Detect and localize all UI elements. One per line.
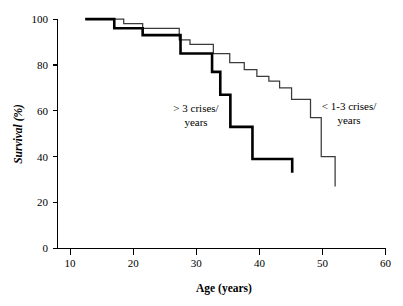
x-tick-label-40: 40: [254, 257, 266, 269]
annotation-low-crises-line1: < 1-3 crises/: [322, 100, 377, 112]
y-tick-label-20: 20: [37, 196, 49, 208]
annotation-high-crises-line2: years: [184, 116, 207, 128]
y-axis-title: Survival (%): [12, 104, 25, 164]
x-tick-label-10: 10: [65, 257, 77, 269]
survival-curve-plot: 0 20 40 60 80 100 10 20 30 40 50: [0, 0, 403, 306]
survival-curve-high-crises: [85, 19, 292, 173]
x-axis-title: Age (years): [196, 282, 252, 295]
survival-chart-figure: 0 20 40 60 80 100 10 20 30 40 50: [0, 0, 403, 306]
y-tick-label-40: 40: [37, 151, 49, 163]
x-tick-label-30: 30: [191, 257, 203, 269]
x-tick-label-60: 60: [380, 257, 392, 269]
y-tick-label-100: 100: [32, 13, 49, 25]
y-tick-label-60: 60: [37, 105, 49, 117]
x-tick-label-20: 20: [128, 257, 140, 269]
x-axis-ticks: 10 20 30 40 50 60: [65, 249, 392, 270]
x-tick-label-50: 50: [317, 257, 329, 269]
annotation-low-crises: < 1-3 crises/ years: [322, 100, 377, 126]
annotation-low-crises-line2: years: [337, 114, 360, 126]
annotation-high-crises: > 3 crises/ years: [173, 102, 219, 128]
y-tick-label-0: 0: [43, 242, 49, 254]
annotation-high-crises-line1: > 3 crises/: [173, 102, 219, 114]
y-tick-label-80: 80: [37, 59, 49, 71]
y-axis-ticks: 0 20 40 60 80 100: [32, 13, 58, 254]
